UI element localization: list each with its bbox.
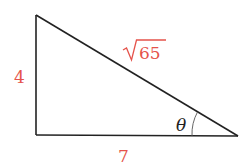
label-horizontal-side: 7 (118, 146, 129, 166)
right-triangle-diagram: 4 7 65 θ (0, 0, 250, 168)
side-hypotenuse (36, 15, 238, 136)
label-angle-theta: θ (176, 115, 186, 135)
label-vertical-side: 4 (14, 67, 25, 87)
label-hypotenuse: 65 (123, 40, 166, 63)
label-hypotenuse-radicand: 65 (139, 43, 161, 63)
angle-arc (192, 112, 198, 136)
side-horizontal (36, 135, 238, 136)
